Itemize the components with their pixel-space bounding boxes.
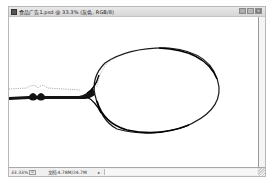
- info-icon[interactable]: ⊙: [29, 170, 36, 175]
- vertical-scrollbar[interactable]: [258, 17, 265, 169]
- document-icon: [11, 9, 17, 15]
- status-bar: 33.33% ⊙ 文档:4.78M/24.7M ▸: [9, 167, 265, 176]
- close-button[interactable]: ×: [255, 8, 262, 14]
- window-controls: – □ ×: [239, 8, 262, 14]
- document-window: 食品广告1.psd @ 33.3% (灰色, RGB/8) – □ × 33.3…: [8, 6, 266, 177]
- resize-grip-icon[interactable]: [258, 168, 265, 176]
- horizontal-scrollbar[interactable]: [104, 169, 257, 175]
- title-bar[interactable]: 食品广告1.psd @ 33.3% (灰色, RGB/8) – □ ×: [9, 7, 265, 17]
- spoon-image: [9, 17, 258, 169]
- zoom-level-field[interactable]: 33.33%: [11, 170, 29, 175]
- document-size-info: 文档:4.78M/24.7M: [48, 169, 94, 175]
- image-canvas[interactable]: [9, 17, 258, 169]
- status-menu-arrow-icon[interactable]: ▸: [98, 170, 100, 175]
- maximize-button[interactable]: □: [247, 8, 254, 14]
- window-title: 食品广告1.psd @ 33.3% (灰色, RGB/8): [19, 8, 114, 15]
- minimize-button[interactable]: –: [239, 8, 246, 14]
